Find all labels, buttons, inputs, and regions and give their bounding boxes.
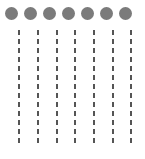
lifeline-head-2 bbox=[24, 7, 37, 20]
lifeline-dashed-7 bbox=[130, 30, 132, 144]
lifeline-dashed-1 bbox=[18, 30, 20, 144]
lifeline-head-3 bbox=[43, 7, 56, 20]
lifeline-dashed-4 bbox=[74, 30, 76, 144]
lifeline-dashed-6 bbox=[112, 30, 114, 144]
lifeline-head-5 bbox=[81, 7, 94, 20]
lifeline-head-1 bbox=[5, 7, 18, 20]
lifeline-dashed-3 bbox=[56, 30, 58, 144]
lifeline-head-4 bbox=[62, 7, 75, 20]
lifeline-head-6 bbox=[100, 7, 113, 20]
lifeline-dashed-5 bbox=[93, 30, 95, 144]
lifeline-head-7 bbox=[119, 7, 132, 20]
lifeline-dashed-2 bbox=[37, 30, 39, 144]
